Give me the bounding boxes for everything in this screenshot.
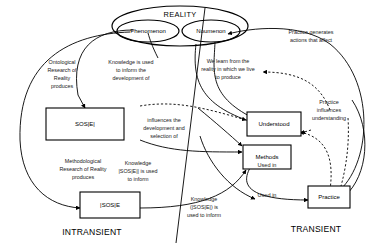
label-line: Knowledge is used — [108, 59, 153, 65]
label-line: |SOS|E|| is used — [118, 168, 157, 174]
node-practice-label: Practice — [318, 194, 340, 200]
label-line: understanding — [312, 115, 346, 121]
label-practice-generates-actions: Practice generates actions that affect — [289, 29, 334, 43]
label-line: actions that affect — [290, 37, 333, 43]
label-line: We learn from the — [207, 58, 250, 64]
label-practice-influences-understanding: Practice influences understanding — [312, 99, 346, 121]
label-line: Knowledge — [125, 160, 152, 166]
label-line: produces — [72, 174, 94, 180]
label-line: development of — [113, 75, 150, 81]
label-line: Practice — [319, 99, 338, 105]
label-line: to inform the — [116, 67, 146, 73]
region-label-intransient: INTRANSIENT — [62, 227, 122, 237]
node-sose-bottom-label: |SOS|E — [100, 202, 120, 208]
label-line: used to inform — [187, 212, 222, 218]
label-methodological-research: Methodological Research of Reality produ… — [59, 158, 106, 180]
node-understood-label: Understood — [258, 121, 289, 127]
label-influences-development-selection: influences the development and selection… — [143, 117, 184, 139]
label-line: Methodological — [65, 158, 101, 164]
label-line: Reality — [54, 75, 71, 81]
node-sose-top-label: SOS|E| — [75, 121, 95, 127]
edge-methods-used-in-practice — [247, 168, 308, 200]
label-line: (|SOS|E|) is — [190, 204, 218, 210]
label-line: Research of Reality — [59, 166, 106, 172]
edge-sose-to-methods — [140, 140, 242, 152]
label-line: to inform — [128, 176, 149, 182]
label-line: reality in which we live — [201, 66, 254, 72]
edge-practice-dashed-outer — [338, 118, 348, 196]
label-line: Ontological — [49, 59, 76, 65]
edge-reality-to-understood — [195, 44, 252, 122]
label-used-in-understood: Used in — [258, 162, 277, 168]
label-knowledge-sose-informs: Knowledge |SOS|E|| is used to inform — [118, 160, 157, 182]
edge-practice-influences-understanding — [300, 132, 331, 190]
region-label-transient: TRANSIENT — [291, 224, 342, 234]
node-phenomenon-label: Phenomenon — [130, 28, 166, 34]
label-line: Practice generates — [289, 29, 334, 35]
label-line: produces — [51, 83, 73, 89]
label-line: Knowledge — [191, 196, 218, 202]
edge-knowledge-to-reality — [148, 33, 158, 58]
label-line: influences — [317, 107, 342, 113]
label-knowledge-sose-bottom-informs: Knowledge (|SOS|E|) is used to inform — [187, 196, 222, 218]
node-reality-label: REALITY — [164, 10, 197, 19]
diagram-canvas: REALITY Phenomenon Noumenon SOS|E| |SOS|… — [0, 0, 383, 248]
node-methods-label: Methods — [255, 154, 278, 160]
label-knowledge-informs-development: Knowledge is used to inform the developm… — [108, 59, 153, 81]
edge-understood-to-methods — [198, 108, 242, 146]
label-line: influences the — [147, 117, 180, 123]
edge-practice-understanding-arrowhead — [301, 130, 311, 133]
label-line: development and — [143, 125, 184, 131]
label-used-in-methods: Used in — [258, 192, 277, 198]
label-line: to produce — [215, 74, 240, 80]
label-ontological-research: Ontological Research of Reality produces — [47, 59, 77, 89]
node-noumenon-label: Noumenon — [196, 28, 225, 34]
label-we-learn-from-reality: We learn from the reality in which we li… — [201, 58, 254, 80]
label-line: Research of — [47, 67, 77, 73]
label-line: selection of — [150, 133, 178, 139]
concept-diagram: REALITY Phenomenon Noumenon SOS|E| |SOS|… — [0, 0, 383, 248]
